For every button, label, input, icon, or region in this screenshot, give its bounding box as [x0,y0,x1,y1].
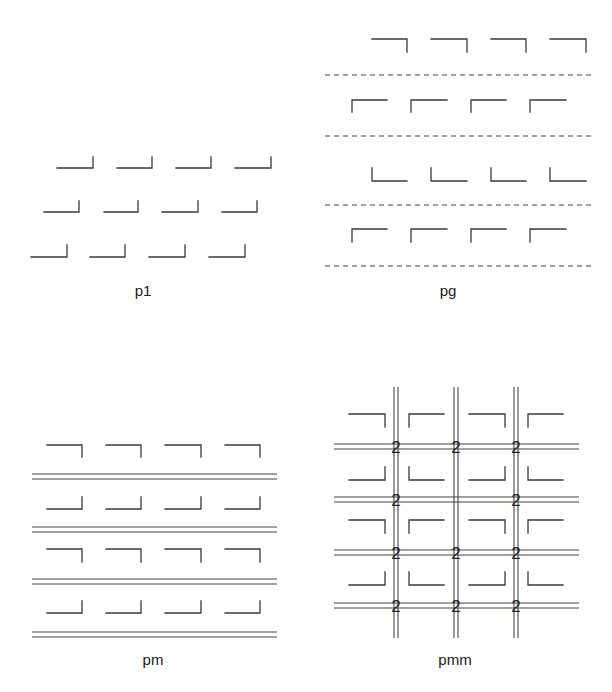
motif-corner-top-right [106,445,141,457]
motif-corner-bottom-right [209,245,245,257]
rotation-center-2fold: 2 [511,544,520,563]
panel-p1 [31,157,271,257]
motif-corner-top-left [411,100,447,112]
motif-corner-top-left [530,229,566,242]
rotation-center-2fold: 2 [391,544,400,563]
motif-corner-bottom-right [47,601,82,613]
motif-corner-bottom-right [117,157,152,168]
motif-corner-bottom-right [349,467,385,480]
motif-corner-top-left [528,414,563,427]
caption-pg: pg [440,282,457,299]
motif-corner-top-left [471,100,506,112]
motif-corner-bottom-right [176,157,211,168]
motif-corner-bottom-right [90,245,125,257]
motif-corner-bottom-right [106,497,141,509]
motif-corner-bottom-left [528,572,563,585]
rotation-center-2fold: 2 [451,544,460,563]
motif-corner-bottom-right [165,497,201,509]
motif-corner-top-left [352,229,387,242]
motif-corner-top-right [106,549,141,562]
motif-corner-bottom-right [47,497,82,509]
motif-corner-bottom-left [409,467,444,480]
motif-corner-bottom-right [57,157,93,168]
motif-corner-top-right [550,39,586,52]
motif-corner-bottom-right [165,601,201,613]
caption-pmm: pmm [438,651,471,668]
motif-corner-top-right [349,520,385,533]
panel-pg [325,39,595,266]
motif-corner-top-left [471,229,506,242]
motif-corner-top-right [349,414,385,427]
motif-corner-bottom-right [162,201,198,212]
motif-corner-bottom-right [469,467,505,480]
motif-corner-top-right [469,414,505,427]
motif-corner-bottom-left [372,168,407,181]
motif-corner-bottom-right [469,572,505,585]
motif-corner-top-right [431,39,467,52]
rotation-center-2fold: 2 [511,438,520,457]
motif-corner-bottom-left [550,168,586,181]
motif-corner-bottom-right [104,201,138,212]
motif-corner-bottom-right [225,601,260,613]
motif-corner-bottom-right [225,497,260,509]
rotation-center-2fold: 2 [391,491,400,510]
motif-corner-bottom-left [528,467,563,480]
rotation-center-2fold: 2 [391,597,400,616]
rotation-center-2fold: 2 [511,597,520,616]
motif-corner-top-left [409,414,444,427]
motif-corner-top-right [372,39,407,52]
motif-corner-top-left [530,100,566,112]
motif-corner-bottom-right [349,572,385,585]
panel-pm [32,445,277,637]
motif-corner-bottom-right [31,245,67,257]
motif-corner-top-right [47,549,82,562]
motif-corner-top-right [47,445,82,457]
motif-corner-bottom-right [222,201,257,212]
motif-corner-top-right [225,549,260,562]
motif-corner-bottom-right [235,157,271,168]
motif-corner-bottom-left [491,168,526,181]
symmetry-group-figure: 22222222222 p1 pg pm pmm [0,0,612,692]
motif-corner-top-left [411,229,447,242]
motif-corner-top-right [165,549,201,562]
motif-corner-top-left [528,520,563,533]
motif-corner-bottom-right [149,245,185,257]
motif-corner-bottom-left [409,572,444,585]
caption-pm: pm [143,651,164,668]
motif-corner-bottom-left [431,168,467,181]
rotation-center-2fold: 2 [451,597,460,616]
rotation-center-2fold: 2 [451,438,460,457]
motif-corner-top-right [225,445,260,457]
rotation-center-2fold: 2 [391,438,400,457]
motif-corner-top-left [352,100,387,112]
rotation-center-2fold: 2 [511,491,520,510]
figure-canvas: 22222222222 p1 pg pm pmm [0,0,612,692]
motif-corner-top-right [165,445,201,457]
caption-p1: p1 [135,282,152,299]
motif-corner-bottom-right [44,201,79,212]
motif-corner-top-right [469,520,505,533]
panel-pmm: 22222222222 [334,387,579,638]
motif-corner-top-right [491,39,526,52]
motif-corner-top-left [409,520,444,533]
motif-corner-bottom-right [106,601,141,613]
